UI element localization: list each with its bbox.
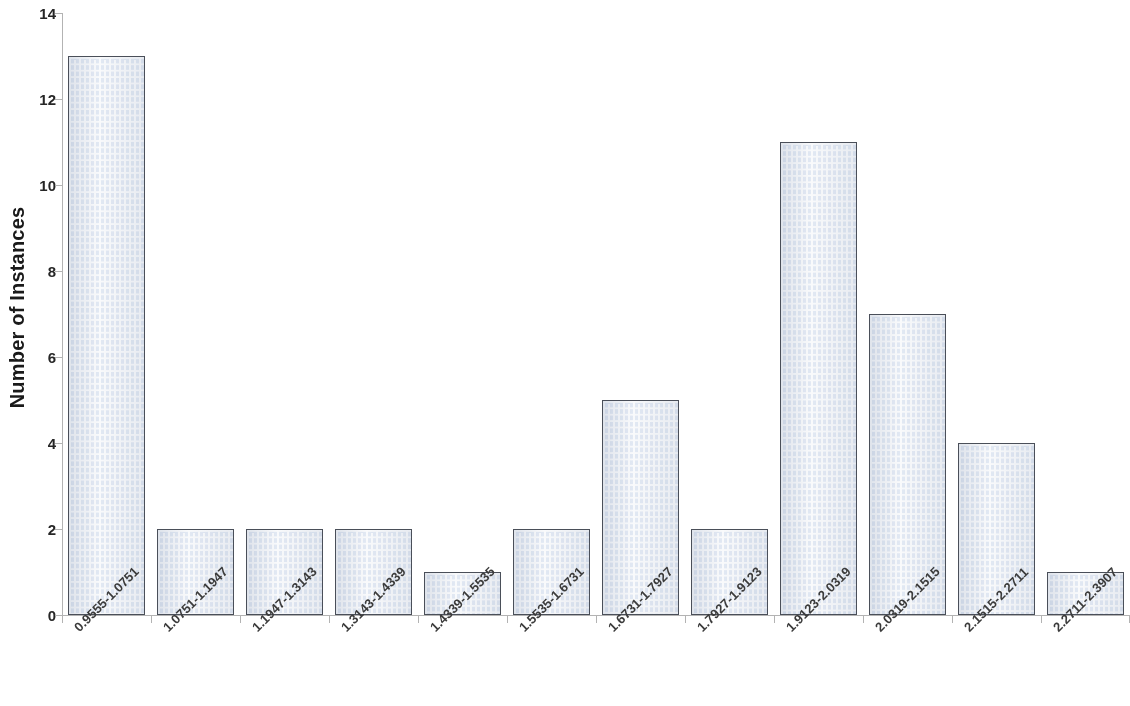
x-axis-tick-mark (151, 616, 152, 623)
x-axis-tick-mark (596, 616, 597, 623)
plot-area (0, 0, 1130, 616)
bar (780, 142, 856, 615)
y-axis-tick-mark (55, 185, 62, 186)
x-axis-tick-mark (507, 616, 508, 623)
x-axis-tick-mark (329, 616, 330, 623)
y-axis-tick-mark (55, 99, 62, 100)
y-axis-tick-mark (55, 357, 62, 358)
y-axis-tick-mark (55, 443, 62, 444)
x-axis-tick-mark (240, 616, 241, 623)
y-axis-tick-mark (55, 529, 62, 530)
x-axis-tick-mark (62, 616, 63, 623)
x-axis-tick-mark (774, 616, 775, 623)
histogram-chart: Number of Instances 02468101214 0.9555-1… (0, 0, 1130, 706)
x-axis-tick-mark (952, 616, 953, 623)
y-axis-tick-mark (55, 271, 62, 272)
y-axis-tick-mark (55, 615, 62, 616)
y-axis-tick-mark (55, 13, 62, 14)
x-axis-tick-mark (863, 616, 864, 623)
x-axis-tick-mark (418, 616, 419, 623)
bar (68, 56, 144, 615)
x-axis-tick-mark (1041, 616, 1042, 623)
x-axis-tick-mark (685, 616, 686, 623)
